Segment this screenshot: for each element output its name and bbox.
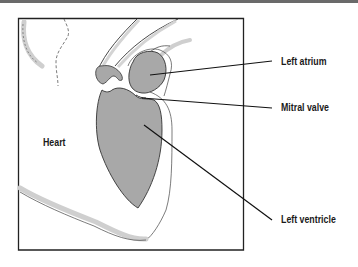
leader-mitral-valve	[142, 98, 272, 108]
left-atrium-shape	[129, 51, 166, 93]
vessel-shadow-left	[24, 22, 42, 66]
label-mitral-valve: Mitral valve	[281, 102, 329, 113]
leader-left-ventricle	[144, 125, 272, 220]
label-left-ventricle: Left ventricle	[281, 214, 336, 225]
leader-left-atrium	[150, 61, 272, 75]
pulmonary-vessel	[160, 40, 190, 56]
heart-diagram	[0, 0, 358, 267]
label-heart: Heart	[43, 137, 66, 148]
left-ventricle-shape	[96, 88, 162, 208]
aortic-valve-leaflet	[96, 66, 123, 84]
vessel-outline-dashed	[56, 19, 69, 86]
label-left-atrium: Left atrium	[281, 56, 326, 67]
